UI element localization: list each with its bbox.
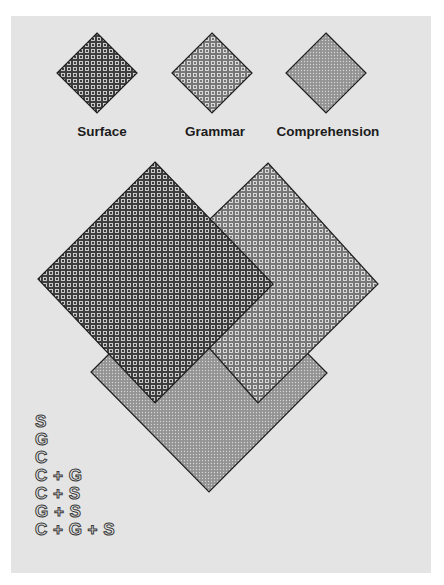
combination-item: C + G + S: [35, 521, 115, 539]
legend-label-grammar: Grammar: [150, 124, 280, 139]
legend-grammar-diamond: [172, 33, 252, 113]
combination-item: G + S: [35, 503, 115, 521]
combination-item: C: [35, 449, 115, 467]
combination-item: C + S: [35, 485, 115, 503]
combination-item: C + G: [35, 467, 115, 485]
combination-item: S: [35, 413, 115, 431]
legend-surface-diamond: [57, 33, 137, 113]
legend-label-surface: Surface: [37, 124, 167, 139]
legend-label-comprehension: Comprehension: [263, 124, 393, 139]
combination-item: G: [35, 431, 115, 449]
legend-comprehension-diamond: [286, 33, 366, 113]
combination-list: S G C C + G C + S G + S C + G + S: [35, 413, 115, 539]
